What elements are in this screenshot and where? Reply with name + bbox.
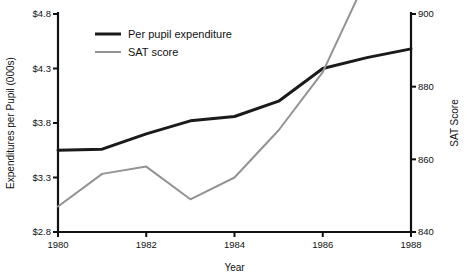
chart-container: $2.8$3.3$3.8$4.3$4.884086088090019801982… — [0, 0, 472, 277]
x-axis-title: Year — [224, 262, 245, 273]
y-axis-left-tick-label: $4.3 — [33, 63, 52, 74]
y-axis-left-tick-label: $3.3 — [33, 172, 52, 183]
y-axis-right-title: SAT Score — [449, 99, 460, 147]
x-axis-tick-label: 1986 — [312, 239, 333, 250]
x-axis-tick-label: 1982 — [136, 239, 157, 250]
legend-label-sat-score: SAT score — [128, 46, 178, 58]
series-line-expenditure — [58, 49, 411, 150]
y-axis-left-title: Expenditures per Pupil (000s) — [5, 57, 16, 189]
y-axis-left-tick-label: $3.8 — [33, 117, 52, 128]
y-axis-right-tick-label: 880 — [418, 81, 434, 92]
x-axis-tick-label: 1988 — [400, 239, 421, 250]
y-axis-right-tick-label: 840 — [418, 226, 434, 237]
line-chart: $2.8$3.3$3.8$4.3$4.884086088090019801982… — [0, 0, 472, 277]
y-axis-right-tick-label: 860 — [418, 154, 434, 165]
series-line-sat-score — [58, 0, 411, 207]
x-axis-tick-label: 1980 — [47, 239, 68, 250]
legend-label-expenditure: Per pupil expenditure — [128, 28, 232, 40]
y-axis-right-tick-label: 900 — [418, 8, 434, 19]
y-axis-left-tick-label: $2.8 — [33, 226, 52, 237]
y-axis-left-tick-label: $4.8 — [33, 8, 52, 19]
x-axis-tick-label: 1984 — [224, 239, 245, 250]
